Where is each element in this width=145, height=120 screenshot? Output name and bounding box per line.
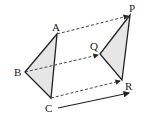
label-c: C <box>45 102 52 114</box>
triangle-pqr <box>100 15 130 80</box>
translation-vector-arrow <box>58 93 129 108</box>
dashed-line-c-r <box>51 81 120 98</box>
translation-diagram: A B C P Q R <box>0 0 145 120</box>
label-a: A <box>52 21 60 33</box>
label-p: P <box>129 2 135 14</box>
label-r: R <box>125 80 133 92</box>
label-b: B <box>14 66 21 78</box>
label-q: Q <box>90 40 98 52</box>
